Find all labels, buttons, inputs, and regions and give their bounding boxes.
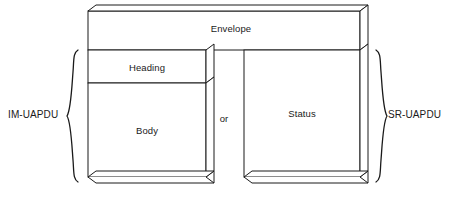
- envelope-label: Envelope: [0, 23, 462, 34]
- left-brace-icon: [67, 50, 78, 182]
- body-bottom-bevel: [88, 177, 214, 183]
- diagram-canvas: Envelope Heading Body or Status IM-UAPDU…: [0, 0, 462, 207]
- status-right-face: [360, 44, 368, 177]
- body-label: Body: [88, 125, 206, 136]
- body-right-face: [206, 77, 214, 177]
- or-connector-label: or: [205, 113, 243, 124]
- status-label: Status: [244, 108, 360, 119]
- right-brace-icon: [376, 50, 387, 182]
- heading-right-face: [206, 44, 214, 83]
- envelope-top-face: [88, 5, 368, 11]
- heading-label: Heading: [88, 62, 206, 73]
- sr-uapdu-label: SR-UAPDU: [388, 109, 441, 120]
- im-uapdu-label: IM-UAPDU: [8, 109, 58, 120]
- body-bottom-face: [88, 171, 214, 177]
- status-bottom-bevel: [244, 177, 368, 183]
- status-bottom-face: [244, 171, 368, 177]
